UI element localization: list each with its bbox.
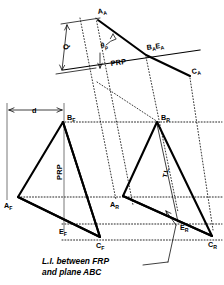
auxiliary-prp-reference-line <box>63 50 200 70</box>
drawing-canvas: AA BAEA CA Q θp PRP d BF AF <box>0 0 224 285</box>
theta-p-arc-arrowhead <box>110 34 115 39</box>
right-view-group <box>123 122 212 265</box>
caption-line-1: L.I. between FRP <box>42 256 109 266</box>
label-point-a-front: AF <box>4 201 12 211</box>
label-point-c-right: CR <box>208 240 217 250</box>
li-leader-tail-line <box>168 225 176 262</box>
label-true-length: T.L. <box>161 166 170 178</box>
front-line-b-to-c <box>63 122 100 237</box>
label-theta-p: θp <box>100 40 108 51</box>
caption-group: L.I. between FRP and plane ABC <box>42 256 109 277</box>
label-prp-front: PRP <box>55 164 64 180</box>
front-view-group <box>7 103 100 237</box>
projector-c-auxiliary-to-right <box>190 78 213 230</box>
label-point-a-auxiliary: AA <box>97 6 107 17</box>
label-point-a-right: AR <box>110 200 119 210</box>
projector-b-auxiliary-diagonal <box>97 82 158 122</box>
li-leader-underline <box>143 262 168 265</box>
label-prp-auxiliary: PRP <box>110 57 127 68</box>
label-point-b-e-auxiliary: BAEA <box>146 41 165 53</box>
auxiliary-labels: AA BAEA CA Q θp PRP <box>61 6 201 77</box>
engineering-drawing-figure: AA BAEA CA Q θp PRP d BF AF <box>0 0 224 285</box>
q-arrowhead-top <box>65 25 70 30</box>
label-dimension-q: Q <box>61 43 71 50</box>
label-dimension-d: d <box>32 106 37 115</box>
label-point-b-front: BF <box>67 113 75 123</box>
li-leader-arrowhead <box>166 211 171 216</box>
caption-line-2: and plane ABC <box>42 267 102 277</box>
label-point-c-front: CF <box>96 241 104 251</box>
projector-a-auxiliary-to-right <box>80 18 116 200</box>
label-point-c-auxiliary: CA <box>191 66 201 77</box>
label-point-b-right: BR <box>161 113 170 123</box>
auxiliary-view-group <box>56 18 213 230</box>
label-point-e-front: EF <box>59 227 67 237</box>
front-view-labels: d BF AF EF CF PRP <box>4 106 104 251</box>
